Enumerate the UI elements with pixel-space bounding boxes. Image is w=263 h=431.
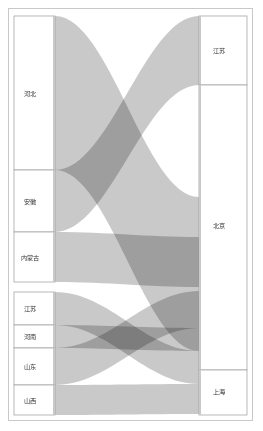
node-beijing-target-label: 北京 — [213, 222, 225, 230]
sankey-diagram: 河北 安徽 内蒙古 江苏 河南 山东 山西 江苏 — [0, 0, 263, 431]
link-shanxi-shanghai[interactable] — [55, 384, 199, 415]
link-group — [55, 16, 199, 415]
sankey-canvas: 河北 安徽 内蒙古 江苏 河南 山东 山西 江苏 — [0, 0, 263, 431]
node-neimenggu-bar — [53, 232, 55, 282]
left-node-group: 河北 安徽 内蒙古 江苏 河南 山东 山西 — [14, 16, 55, 415]
node-henan-bar — [53, 325, 55, 348]
node-jiangsu-source-label: 江苏 — [24, 305, 36, 313]
node-shandong-label: 山东 — [24, 363, 36, 371]
node-anhui-bar — [53, 170, 55, 232]
node-jiangsu-target-label: 江苏 — [213, 47, 225, 55]
link-neimenggu-beijing[interactable] — [55, 232, 199, 287]
node-shanxi-label: 山西 — [24, 397, 36, 405]
node-jiangsu-source-bar — [53, 292, 55, 325]
node-shanghai-target-bar — [199, 370, 201, 415]
node-shanxi-bar — [53, 385, 55, 415]
node-jiangsu-target-bar — [199, 16, 201, 85]
node-henan-label: 河南 — [24, 333, 36, 340]
node-shandong-bar — [53, 348, 55, 385]
node-hebei-bar — [53, 16, 55, 170]
node-neimenggu-label: 内蒙古 — [21, 254, 39, 262]
node-hebei-label: 河北 — [24, 90, 37, 98]
node-shanghai-target-label: 上海 — [213, 388, 225, 396]
node-anhui-label: 安徽 — [24, 198, 37, 206]
right-node-group: 江苏 北京 上海 — [199, 16, 247, 415]
node-beijing-target-bar — [199, 85, 201, 370]
